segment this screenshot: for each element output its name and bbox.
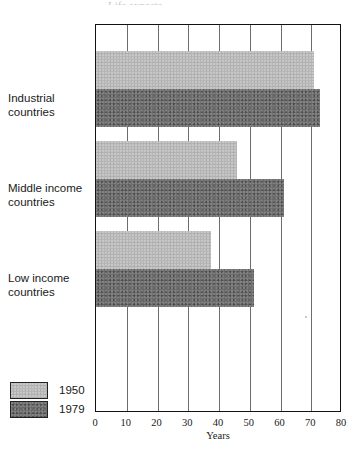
category-label-line1: Low income: [8, 272, 92, 286]
x-tick-20: 20: [145, 417, 169, 429]
x-axis-title: Years: [95, 430, 341, 442]
category-label-industrial: Industrial countries: [8, 92, 92, 119]
legend-label-1979: 1979: [59, 403, 85, 416]
category-label-line2: countries: [8, 196, 92, 210]
x-tick-10: 10: [114, 417, 138, 429]
x-tick-60: 60: [268, 417, 292, 429]
category-label-line1: Industrial: [8, 92, 92, 106]
legend-item-1950: 1950: [10, 381, 85, 400]
category-label-line1: Middle income: [8, 182, 92, 196]
chart-legend: 1950 1979: [10, 381, 85, 419]
category-label-line2: countries: [8, 106, 92, 120]
bar-middle-income-countries-1979: [96, 179, 284, 217]
category-label-line2: countries: [8, 286, 92, 300]
bar-middle-income-countries-1950: [96, 141, 237, 179]
x-tick-30: 30: [175, 417, 199, 429]
legend-item-1979: 1979: [10, 400, 85, 419]
bar-industrial-countries-1950: [96, 51, 314, 89]
bar-industrial-countries-1979: [96, 89, 320, 127]
x-tick-80: 80: [329, 417, 353, 429]
category-label-middle-income: Middle income countries: [8, 182, 92, 209]
legend-label-1950: 1950: [59, 384, 85, 397]
category-label-low-income: Low income countries: [8, 272, 92, 299]
clipped-title-fragment: Life expectancy: [108, 0, 162, 5]
chart-plot-area: [95, 24, 341, 412]
print-speck: [305, 316, 307, 318]
legend-swatch-1950-icon: [10, 382, 48, 399]
bar-low-income-countries-1979: [96, 269, 254, 307]
legend-swatch-1979-icon: [10, 401, 48, 418]
bar-low-income-countries-1950: [96, 231, 211, 269]
x-tick-0: 0: [83, 417, 107, 429]
x-tick-40: 40: [206, 417, 230, 429]
x-tick-50: 50: [237, 417, 261, 429]
chart-plot-inner: [96, 25, 340, 411]
x-tick-70: 70: [298, 417, 322, 429]
